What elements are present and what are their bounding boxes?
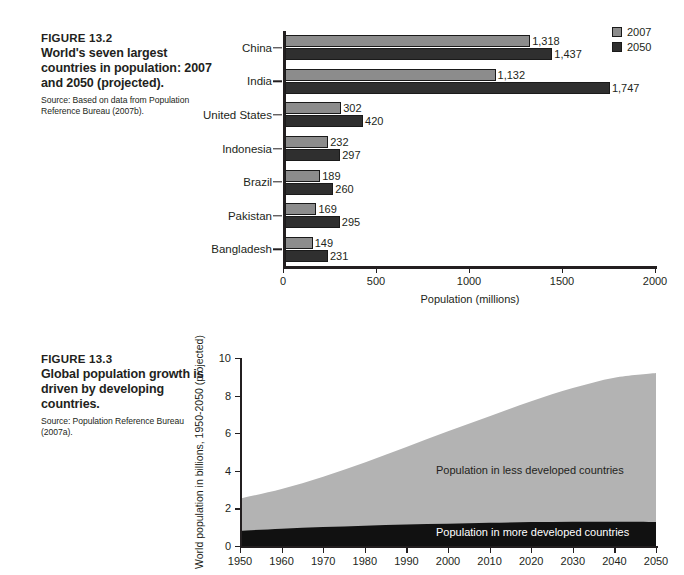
bar-x-tick xyxy=(655,268,656,273)
bar-value-label: 189 xyxy=(322,170,340,182)
area-x-tick-label: 1990 xyxy=(394,555,418,567)
area-x-tick-label: 2010 xyxy=(477,555,501,567)
bar-category-label: Bangladesh xyxy=(211,243,272,255)
figure-13-2-title: World's seven largest countries in popul… xyxy=(41,46,216,91)
figure-13-3-caption: FIGURE 13.3 Global population growth is … xyxy=(41,352,216,438)
bar-category-tick xyxy=(273,215,282,216)
bar-x-tick-label: 0 xyxy=(280,275,286,287)
bar-2050: 420 xyxy=(285,115,363,127)
bar-2050: 260 xyxy=(285,183,333,195)
bar-group: Indonesia232297 xyxy=(283,136,655,161)
bar-value-label: 231 xyxy=(330,250,348,262)
bar-2007: 1,318 xyxy=(285,35,530,47)
bar-x-tick-label: 500 xyxy=(367,275,385,287)
bar-group: Pakistan169295 xyxy=(283,203,655,228)
bar-x-tick-label: 1500 xyxy=(550,275,574,287)
bar-value-label: 295 xyxy=(342,216,360,228)
figure-13-2-number: FIGURE 13.2 xyxy=(41,31,216,45)
figure-13-2-source: Source: Based on data from Population Re… xyxy=(41,95,216,117)
bar-2050: 231 xyxy=(285,250,328,262)
annotation-more-developed: Population in more developed countries xyxy=(436,526,629,538)
area-chart-plot-area: 0246810 19501960197019801990200020102020… xyxy=(240,358,656,546)
area-x-tick xyxy=(323,548,324,553)
area-chart-y-axis-title: World population in billions, 1950-2050 … xyxy=(193,335,206,569)
bar-group: United States302420 xyxy=(283,102,655,127)
bar-group: Brazil189260 xyxy=(283,170,655,195)
bar-category-tick xyxy=(273,181,282,182)
area-y-tick xyxy=(235,396,240,397)
bar-group: China1,3181,437 xyxy=(283,35,655,60)
figure-13-3: FIGURE 13.3 Global population growth is … xyxy=(0,330,684,575)
bar-x-tick xyxy=(562,268,563,273)
area-chart-y-axis xyxy=(240,358,242,546)
bar-2050: 295 xyxy=(285,216,340,228)
bar-2050: 1,747 xyxy=(285,82,610,94)
area-y-tick xyxy=(235,433,240,434)
area-x-tick-label: 2030 xyxy=(561,555,585,567)
bar-x-tick-label: 2000 xyxy=(643,275,667,287)
figure-13-3-source: Source: Population Reference Bureau (200… xyxy=(41,416,216,438)
figure-13-3-number: FIGURE 13.3 xyxy=(41,352,216,366)
bar-2007: 149 xyxy=(285,237,313,249)
area-x-tick-label: 1980 xyxy=(353,555,377,567)
area-x-tick xyxy=(490,548,491,553)
area-x-tick xyxy=(656,548,657,553)
area-x-tick xyxy=(614,548,615,553)
area-y-tick-label: 6 xyxy=(225,427,231,439)
figure-13-2: FIGURE 13.2 World's seven largest countr… xyxy=(0,0,684,320)
bar-category-tick xyxy=(273,114,282,115)
bar-value-label: 297 xyxy=(342,149,360,161)
area-x-tick-label: 2000 xyxy=(436,555,460,567)
bar-category-tick xyxy=(273,249,282,250)
bar-x-tick-label: 1000 xyxy=(457,275,481,287)
area-y-tick-label: 0 xyxy=(225,540,231,552)
bar-category-label: United States xyxy=(203,109,272,121)
bar-category-tick xyxy=(273,148,282,149)
figure-13-3-title: Global population growth is driven by de… xyxy=(41,367,216,412)
area-x-tick-label: 2020 xyxy=(519,555,543,567)
bar-2007: 1,132 xyxy=(285,69,496,81)
bar-value-label: 302 xyxy=(343,102,361,114)
area-x-tick xyxy=(448,548,449,553)
bar-group: Bangladesh149231 xyxy=(283,237,655,262)
annotation-less-developed: Population in less developed countries xyxy=(436,464,624,476)
bar-category-label: Pakistan xyxy=(228,210,272,222)
bar-value-label: 1,318 xyxy=(532,35,560,47)
area-y-tick xyxy=(235,358,240,359)
bar-x-tick xyxy=(376,268,377,273)
bar-value-label: 420 xyxy=(365,115,383,127)
bar-category-label: Brazil xyxy=(243,176,272,188)
bar-2050: 297 xyxy=(285,149,340,161)
area-y-tick-label: 4 xyxy=(225,465,231,477)
area-x-tick xyxy=(531,548,532,553)
bar-group: India1,1321,747 xyxy=(283,69,655,94)
area-x-tick-label: 1950 xyxy=(228,555,252,567)
area-x-tick xyxy=(365,548,366,553)
area-chart-svg xyxy=(240,358,656,546)
bar-value-label: 232 xyxy=(330,136,348,148)
area-x-tick-label: 1970 xyxy=(311,555,335,567)
area-x-tick-label: 2040 xyxy=(602,555,626,567)
area-less-developed xyxy=(240,373,656,546)
area-y-tick xyxy=(235,471,240,472)
bar-value-label: 149 xyxy=(315,237,333,249)
bar-category-label: China xyxy=(242,42,272,54)
bar-value-label: 1,437 xyxy=(554,48,582,60)
area-y-tick-label: 10 xyxy=(219,352,231,364)
bar-category-tick xyxy=(273,81,282,82)
area-y-tick xyxy=(235,508,240,509)
bar-chart-x-axis-title: Population (millions) xyxy=(420,293,519,305)
bar-x-tick xyxy=(283,268,284,273)
bar-category-label: Indonesia xyxy=(222,143,272,155)
bar-category-label: India xyxy=(247,75,272,87)
bar-value-label: 1,747 xyxy=(612,82,640,94)
area-y-tick-label: 2 xyxy=(225,502,231,514)
bar-2007: 232 xyxy=(285,136,328,148)
area-x-tick xyxy=(282,548,283,553)
bar-value-label: 1,132 xyxy=(498,69,526,81)
bar-chart-plot-area: China1,3181,437India1,1321,747United Sta… xyxy=(283,31,655,266)
area-x-tick-label: 2050 xyxy=(644,555,668,567)
bar-x-tick xyxy=(469,268,470,273)
bar-category-tick xyxy=(273,47,282,48)
bar-2050: 1,437 xyxy=(285,48,552,60)
